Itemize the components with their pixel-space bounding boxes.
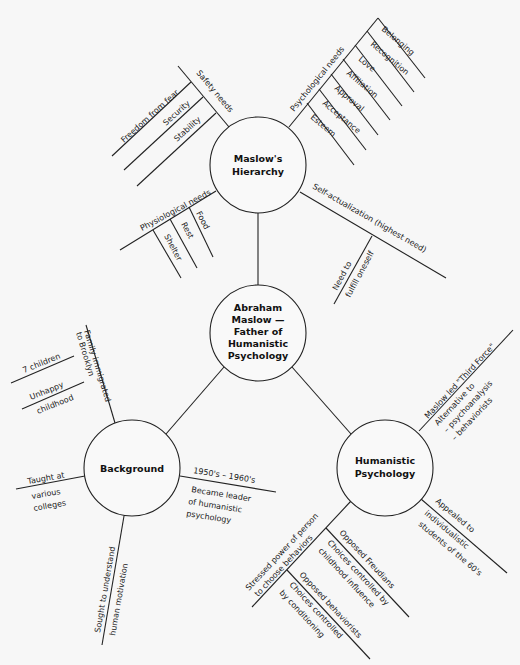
node-label: Maslow — bbox=[232, 314, 285, 325]
physio-item: Shelter bbox=[162, 233, 184, 263]
physio-item: Food bbox=[194, 210, 211, 231]
connector-center-humanistic bbox=[292, 367, 351, 434]
self-actualization-label: Self-actualization (highest need) bbox=[311, 182, 428, 255]
psych-item: Esteem bbox=[309, 113, 338, 139]
node-background: Background bbox=[84, 420, 180, 516]
node-label: Father of bbox=[234, 326, 284, 337]
branch-family: Family immigrated to Brooklyn 7 children… bbox=[11, 325, 115, 423]
branch-sought: Sought to understand human motivation bbox=[93, 516, 130, 645]
branch-taught: Taught at various colleges bbox=[16, 471, 85, 513]
branch-leader: 1950's – 1960's Became leader of humanis… bbox=[180, 466, 276, 525]
node-label: Maslow's bbox=[234, 153, 283, 164]
branch-stressed: Stressed power of person to choose behav… bbox=[244, 501, 409, 659]
node-humanistic-psychology: Humanistic Psychology bbox=[337, 420, 433, 516]
leader-label: 1950's – 1960's bbox=[193, 466, 256, 485]
node-label: Psychology bbox=[228, 350, 289, 361]
branch-psychological-needs: Psychological needs Belonging Recognitio… bbox=[289, 18, 425, 165]
psychological-needs-label: Psychological needs bbox=[289, 45, 347, 113]
node-label: Abraham bbox=[234, 302, 282, 313]
family-item: 7 children bbox=[21, 352, 61, 375]
taught-label: colleges bbox=[33, 498, 67, 513]
node-center: Abraham Maslow — Father of Humanistic Ps… bbox=[210, 285, 306, 381]
branch-physiological-needs: Physiological needs Food Rest Shelter bbox=[120, 188, 216, 278]
connector-center-background bbox=[166, 367, 224, 434]
branch-third-force: Maslow led "Third Force" Alternative to … bbox=[419, 330, 513, 442]
node-maslows-hierarchy: Maslow's Hierarchy bbox=[210, 117, 306, 213]
node-label: Psychology bbox=[355, 468, 416, 479]
taught-label: various bbox=[31, 487, 61, 501]
psych-item: Love bbox=[357, 55, 377, 74]
node-label: Humanistic bbox=[228, 338, 288, 349]
node-label: Humanistic bbox=[355, 455, 415, 466]
node-label: Background bbox=[100, 463, 164, 474]
branch-appealed: Appealed to individualistic students of … bbox=[417, 497, 507, 578]
mind-map: Safety needs Freedom from fear Security … bbox=[0, 0, 520, 665]
branch-self-actualization: Self-actualization (highest need) Need t… bbox=[300, 182, 446, 304]
safety-needs-label: Safety needs bbox=[194, 69, 235, 115]
node-label: Hierarchy bbox=[232, 166, 285, 177]
physio-item: Rest bbox=[179, 221, 195, 241]
